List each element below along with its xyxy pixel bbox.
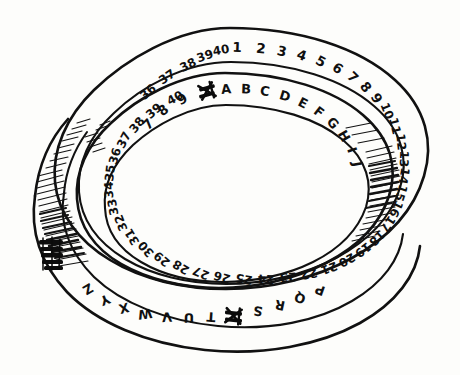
outer-label-40b: 40 [212, 42, 231, 59]
inner-label: R [274, 297, 287, 314]
inner-label: A [220, 81, 231, 97]
outer-label: 24 [257, 271, 275, 286]
outer-label: 4 [295, 46, 309, 64]
inner-label: T [206, 309, 216, 325]
outer-label: 34 [102, 181, 117, 198]
blotted-glyph-2 [225, 308, 242, 324]
inner-label: S [252, 303, 263, 319]
inner-label: I [344, 145, 360, 155]
inner-label: D [278, 87, 293, 105]
outer-label: 3 [276, 42, 289, 60]
outer-label: 22 [299, 266, 318, 283]
inner-label: H [335, 128, 353, 145]
inner-label: Y [97, 291, 113, 309]
inner-label: F [311, 103, 327, 120]
outer-label: 33 [105, 197, 122, 216]
inner-label: E [296, 94, 311, 111]
inner-label: V [162, 309, 173, 325]
outer-label-37b: 37 [156, 67, 178, 88]
outer-label: 23 [279, 270, 296, 285]
outer-band-labels: 1 2 3 4 5 6 7 8 9 10 11 12 13 14 15 16 1… [102, 39, 413, 288]
inner-label: Q [293, 289, 308, 306]
handwritten-annotation-scribble [39, 237, 63, 270]
outer-label: 20 [336, 250, 357, 270]
outer-label: 5 [313, 52, 329, 71]
outer-label: 21 [319, 259, 339, 278]
outer-label: 7 [344, 68, 362, 86]
outer-label: 25 [235, 271, 254, 288]
sketch-canvas: 1 2 3 4 5 6 7 8 9 10 11 12 13 14 15 16 1… [0, 0, 460, 375]
outer-label: 2 [255, 39, 266, 56]
inner-label: B [241, 81, 251, 96]
inner-label: P [313, 281, 327, 298]
inner-label: X [117, 300, 130, 317]
inner-label: W [137, 306, 153, 323]
outer-label: 12 [393, 133, 409, 151]
outer-label: 1 [232, 39, 242, 55]
inner-label: Z [80, 280, 96, 298]
inner-label: J [349, 159, 365, 167]
inner-label: C [259, 83, 271, 99]
mobius-band-figure: 1 2 3 4 5 6 7 8 9 10 11 12 13 14 15 16 1… [0, 0, 460, 375]
inner-label: U [184, 310, 195, 325]
inner-digit-9: 9 [174, 90, 190, 109]
outer-label: 13 [397, 150, 412, 167]
outer-label: 6 [329, 59, 346, 77]
outer-label: 35 [102, 164, 118, 182]
outer-label: 8 [357, 78, 375, 95]
blotted-glyph-1 [198, 82, 215, 100]
